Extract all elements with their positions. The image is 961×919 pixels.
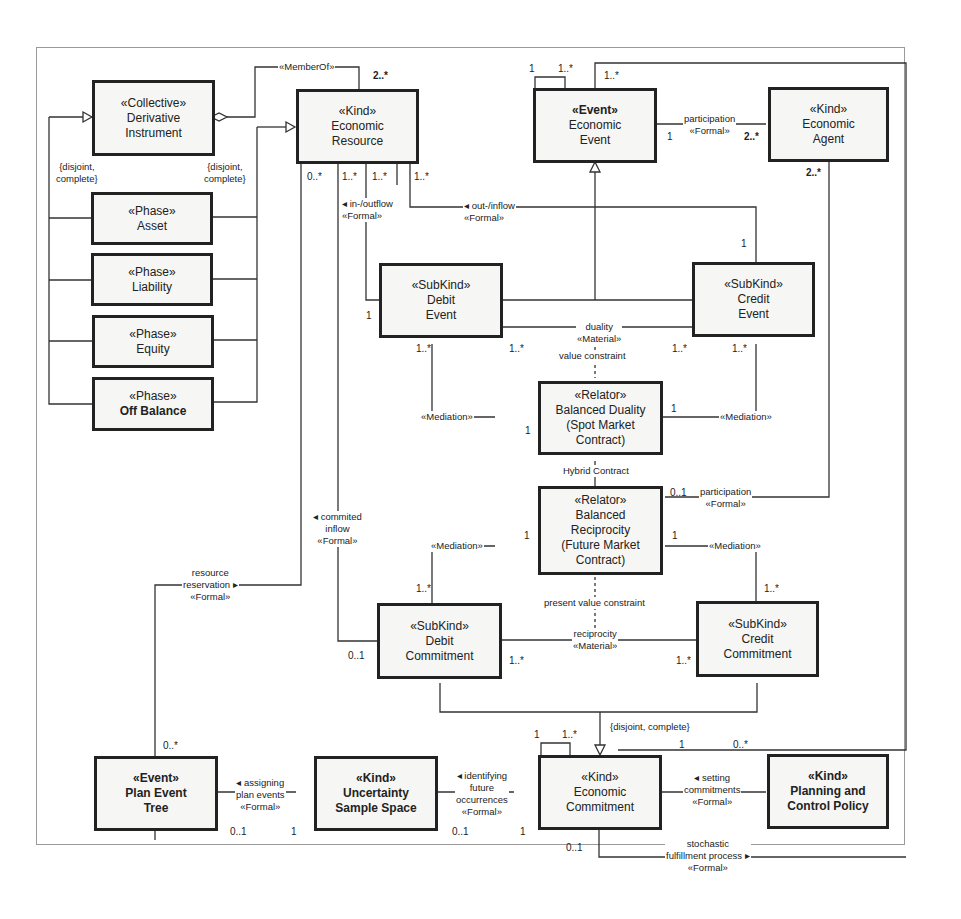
class-liability[interactable]: «Phase» Liability [91, 253, 213, 306]
label-stochastic-fulfillment: stochasticfulfillment process ▸«Formal» [665, 838, 751, 874]
class-economic-resource[interactable]: «Kind» Economic Resource [296, 89, 419, 164]
mult: 1..* [509, 343, 524, 355]
mult: 1..* [732, 343, 747, 355]
mult: 0..1 [566, 842, 583, 854]
class-planning-control-policy[interactable]: «Kind» Planning and Control Policy [767, 754, 889, 829]
mult: 1..* [342, 171, 357, 183]
mult: 1..* [372, 171, 387, 183]
label-mediation-bd-left: «Mediation» [420, 411, 474, 423]
class-derivative-instrument[interactable]: «Collective» Derivative Instrument [92, 80, 215, 156]
mult: 2..* [373, 70, 388, 82]
mult: 1 [366, 310, 372, 322]
mult: 1..* [604, 70, 619, 82]
mult: 1 [741, 238, 747, 250]
mult: 1..* [509, 655, 524, 667]
generalization-arrow-icon [590, 162, 600, 172]
mult: 1..* [676, 655, 691, 667]
label-assigning-plan-events: ◂ assigningplan events«Formal» [235, 777, 286, 813]
label-member-of: «MemberOf» [278, 61, 335, 73]
mult: 1 [667, 131, 673, 143]
class-plan-event-tree[interactable]: «Event» Plan Event Tree [94, 756, 218, 831]
label-disjoint-right: {disjoint,complete} [203, 161, 247, 185]
label-disjoint-left: {disjoint,complete} [55, 161, 99, 185]
mult: 1..* [416, 583, 431, 595]
mult: 1 [671, 403, 677, 415]
class-asset[interactable]: «Phase» Asset [91, 192, 213, 245]
mult: 1..* [558, 63, 573, 75]
class-debit-commitment[interactable]: «SubKind» Debit Commitment [377, 603, 502, 679]
mult: 1 [291, 826, 297, 838]
mult: 1 [520, 826, 526, 838]
stereotype: «Collective» [121, 96, 186, 111]
label-duality: duality«Material» [576, 321, 622, 345]
mult: 0..1 [230, 826, 247, 838]
mult: 0..1 [452, 826, 469, 838]
class-credit-event[interactable]: «SubKind» Credit Event [692, 262, 815, 337]
class-balanced-duality[interactable]: «Relator» Balanced Duality (Spot Market … [538, 381, 663, 455]
mult: 1..* [672, 343, 687, 355]
label-committed-inflow: ◂ commitedinflow«Formal» [312, 511, 363, 547]
label-participation-top: participation«Formal» [683, 113, 736, 137]
class-off-balance[interactable]: «Phase» Off Balance [92, 377, 214, 431]
label-mediation-bd-right: «Mediation» [719, 411, 773, 423]
mult: 0..* [163, 740, 178, 752]
mult: 0..1 [670, 487, 687, 499]
class-uncertainty-sample-space[interactable]: «Kind» Uncertainty Sample Space [314, 756, 438, 831]
generalization-arrow-icon [286, 122, 295, 132]
label-hybrid-contract: Hybrid Contract [562, 465, 630, 477]
mult: 1..* [562, 729, 577, 741]
label-reciprocity: reciprocity«Material» [572, 628, 618, 652]
class-economic-agent[interactable]: «Kind» Economic Agent [768, 87, 889, 162]
mult: 0..* [733, 739, 748, 751]
mult: 1 [524, 530, 530, 542]
mult: 1 [529, 63, 535, 75]
label-setting-commitments: ◂ settingcommitments«Formal» [683, 772, 741, 808]
label-disjoint-bottom: {disjoint, complete} [609, 721, 691, 733]
mult: 0..1 [348, 650, 365, 662]
label-mediation-br-right: «Mediation» [708, 540, 762, 552]
mult: 1 [525, 425, 531, 437]
mult: 2..* [744, 131, 759, 143]
mult: 0..* [307, 171, 322, 183]
class-equity[interactable]: «Phase» Equity [92, 315, 214, 368]
class-credit-commitment[interactable]: «SubKind» Credit Commitment [696, 601, 819, 677]
mult: 1..* [414, 171, 429, 183]
class-balanced-reciprocity[interactable]: «Relator» Balanced Reciprocity (Future M… [538, 486, 663, 575]
mult: 1 [672, 530, 678, 542]
label-mediation-br-left: «Mediation» [430, 540, 484, 552]
label-resource-reservation: resourcereservation ▸«Formal» [182, 567, 239, 603]
label-identifying-future: ◂ identifyingfutureoccurrences«Formal» [455, 770, 509, 818]
label-value-constraint: value constraint [558, 350, 627, 362]
mult: 1 [679, 739, 685, 751]
mult: 2..* [806, 167, 821, 179]
class-economic-event[interactable]: «Event» Economic Event [533, 88, 657, 163]
mult: 1 [534, 729, 540, 741]
mult: 1..* [416, 343, 431, 355]
class-debit-event[interactable]: «SubKind» Debit Event [379, 263, 503, 338]
label-in-outflow: ◂ in-/outflow«Formal» [341, 198, 394, 222]
mult: 1..* [764, 583, 779, 595]
class-economic-commitment[interactable]: «Kind» Economic Commitment [538, 755, 662, 830]
generalization-arrow-icon [595, 745, 605, 755]
generalization-arrow-icon [83, 112, 92, 122]
label-participation-mid: participation«Formal» [699, 486, 752, 510]
label-out-inflow: ◂ out-/inflow«Formal» [463, 200, 516, 224]
label-present-value-constraint: present value constraint [543, 597, 646, 609]
